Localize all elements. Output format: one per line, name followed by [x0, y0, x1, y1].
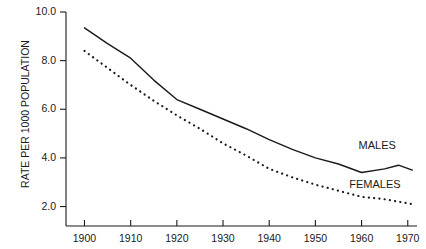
chart-container: RATE PER 1000 POPULATION 2.04.06.08.010.… [0, 0, 426, 249]
series-label-males: MALES [359, 139, 396, 151]
series-label-females: FEMALES [349, 178, 400, 190]
x-axis-tick-label: 1960 [338, 232, 386, 244]
x-axis-tick-label: 1950 [291, 232, 339, 244]
y-axis-tick-label: 2.0 [16, 200, 56, 212]
x-axis-tick-label: 1920 [153, 232, 201, 244]
x-axis-tick-label: 1970 [384, 232, 426, 244]
axes-group [66, 12, 417, 226]
chart-plot-area [0, 0, 426, 249]
series-line-males [84, 28, 412, 173]
y-axis-ticks [60, 12, 66, 207]
x-axis-tick-label: 1940 [245, 232, 293, 244]
x-axis-tick-label: 1910 [107, 232, 155, 244]
y-axis-tick-label: 10.0 [16, 5, 56, 17]
y-axis-tick-label: 4.0 [16, 151, 56, 163]
x-axis-tick-label: 1900 [60, 232, 108, 244]
x-axis-ticks [84, 220, 407, 226]
y-axis-tick-label: 8.0 [16, 54, 56, 66]
x-axis-tick-label: 1930 [199, 232, 247, 244]
y-axis-tick-label: 6.0 [16, 102, 56, 114]
